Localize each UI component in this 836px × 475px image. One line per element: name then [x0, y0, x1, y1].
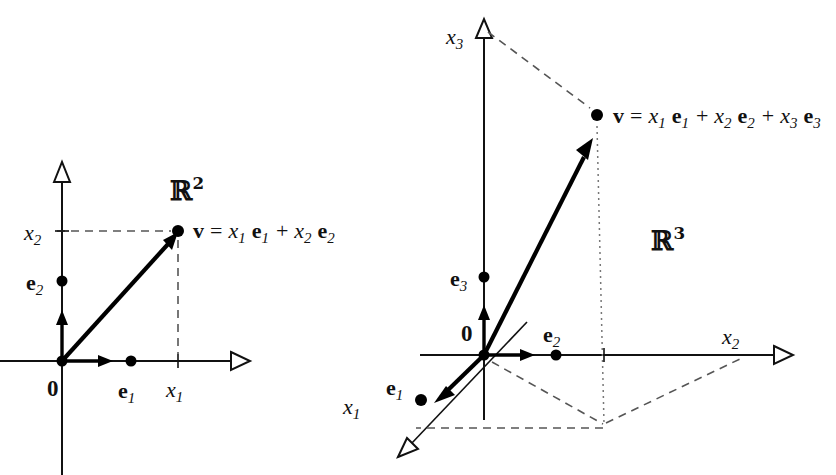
- r2-vector-equation-label: v=x1e1+x2e2: [193, 218, 335, 246]
- r3-labels: ℝ3 x3 x2 x1 0 e3 e2 e1 v=x1e1+x2e2+x3e3: [342, 24, 821, 422]
- r3-vector-v-arrowhead-icon: [576, 138, 593, 160]
- r3-e2-point: [551, 350, 562, 361]
- r2-basis-e2-arrowhead-icon: [56, 310, 68, 325]
- r3-foot-to-x2-dashed-line: [606, 358, 742, 423]
- r2-x1-tick-label: x1: [165, 377, 183, 405]
- r2-space-label: ℝ2: [170, 173, 204, 206]
- r3-space-label: ℝ3: [651, 223, 685, 256]
- r2-basis-e2-label: e2: [26, 270, 44, 298]
- r2-origin-point: [57, 356, 68, 367]
- r2-basis-e1-arrowhead-icon: [98, 355, 113, 367]
- r3-v-drop-dashed-line: [597, 126, 604, 424]
- r2-x-axis-arrowhead-icon: [231, 352, 250, 370]
- r2-e2-point: [57, 276, 68, 287]
- r2-vector-v-point: [172, 225, 184, 237]
- r3-basis-e2-arrowhead-icon: [520, 349, 535, 361]
- r2-x2-tick-label: x2: [23, 220, 42, 248]
- r3-x3-axis-arrowhead-icon: [476, 19, 492, 38]
- r3-x2-axis-arrowhead-icon: [774, 346, 793, 364]
- r3-vector-v-point: [591, 109, 603, 121]
- r2-panel: [0, 162, 250, 475]
- r2-y-axis-arrowhead-icon: [54, 162, 70, 182]
- r3-x3-to-v-dashed-line: [488, 32, 590, 108]
- r2-e1-point: [126, 356, 137, 367]
- figure-root: ℝ2 0 e1 x1 x2 e2 v=x1e1+x2e2 ℝ3 x3 x2 x1: [0, 0, 836, 475]
- r3-x3-axis-label: x3: [445, 24, 463, 52]
- r3-basis-e3-arrowhead-icon: [478, 305, 490, 320]
- r3-basis-e1-label: e1: [386, 375, 403, 403]
- r3-x2-axis-label: x2: [721, 324, 740, 352]
- r3-vector-v-shaft: [484, 157, 584, 355]
- r3-x1-axis-label: x1: [342, 394, 360, 422]
- r3-origin-label: 0: [461, 321, 473, 346]
- r3-vector-equation-label: v=x1e1+x2e2+x3e3: [613, 103, 821, 131]
- r3-basis-e2-label: e2: [543, 322, 561, 350]
- r3-origin-to-foot-dashed-line: [492, 362, 603, 424]
- r3-e1-point: [415, 394, 427, 406]
- r3-e3-point: [479, 272, 490, 283]
- vector-diagram-svg: ℝ2 0 e1 x1 x2 e2 v=x1e1+x2e2 ℝ3 x3 x2 x1: [0, 0, 836, 475]
- r2-vector-v-shaft: [62, 243, 169, 361]
- r3-basis-e3-label: e3: [450, 266, 467, 294]
- r2-origin-label: 0: [47, 376, 59, 401]
- r3-panel: [398, 19, 793, 457]
- r3-origin-point: [479, 350, 490, 361]
- r2-basis-e1-label: e1: [118, 378, 135, 406]
- r2-labels: ℝ2 0 e1 x1 x2 e2 v=x1e1+x2e2: [23, 173, 335, 406]
